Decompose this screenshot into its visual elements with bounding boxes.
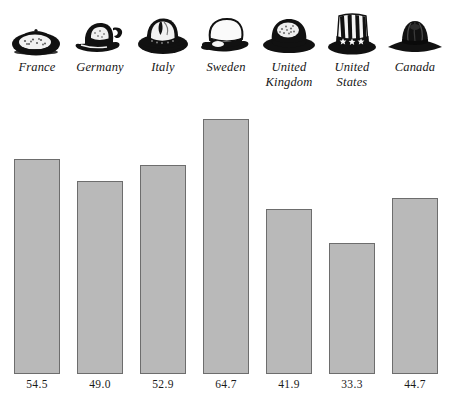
hat-cell-france <box>6 0 68 58</box>
category-label-united-states: United States <box>321 60 383 90</box>
bar-rect <box>329 243 375 374</box>
hat-cell-united-states <box>321 0 383 58</box>
bar-canada <box>392 198 438 374</box>
bar-italy <box>140 165 186 374</box>
value-label-italy: 52.9 <box>132 378 194 390</box>
bar-rect <box>392 198 438 374</box>
mountie-hat-icon <box>385 14 445 58</box>
tyrolean-hat-icon <box>71 14 129 58</box>
category-label-line1: Sweden <box>206 60 245 74</box>
bar-sweden <box>203 119 249 374</box>
bar-rect <box>77 181 123 374</box>
bar-rect <box>266 209 312 374</box>
bowler-hat-icon <box>260 12 318 58</box>
bar-united-states <box>329 243 375 374</box>
value-label-sweden: 64.7 <box>195 378 257 390</box>
value-label-france: 54.5 <box>6 378 68 390</box>
bar-rect <box>140 165 186 374</box>
hat-illustration-row <box>0 0 462 58</box>
hat-cell-sweden <box>195 0 257 58</box>
category-label-line1: United <box>272 60 307 74</box>
category-label-line2: States <box>321 75 383 90</box>
bar-united-kingdom <box>266 209 312 374</box>
value-label-canada: 44.7 <box>384 378 446 390</box>
beret-hat-icon <box>9 18 65 58</box>
category-label-italy: Italy <box>132 60 194 75</box>
value-label-united-states: 33.3 <box>321 378 383 390</box>
category-label-france: France <box>6 60 68 75</box>
category-label-canada: Canada <box>384 60 446 75</box>
value-label-germany: 49.0 <box>69 378 131 390</box>
bar-germany <box>77 181 123 374</box>
hat-cell-united-kingdom <box>258 0 320 58</box>
fedora-hat-icon <box>134 12 192 58</box>
bar-chart-figure: France Germany Italy Sweden United Kingd… <box>0 0 462 412</box>
bar-france <box>14 159 60 374</box>
student-cap-icon <box>197 12 255 58</box>
category-label-line1: Canada <box>395 60 436 74</box>
category-label-germany: Germany <box>69 60 131 75</box>
hat-cell-canada <box>384 0 446 58</box>
bar-rect <box>203 119 249 374</box>
plot-area <box>0 94 462 374</box>
category-label-united-kingdom: United Kingdom <box>258 60 320 90</box>
top-hat-stars-stripes-icon <box>324 8 380 58</box>
category-label-row: France Germany Italy Sweden United Kingd… <box>0 60 462 94</box>
value-label-row: 54.5 49.0 52.9 64.7 41.9 33.3 44.7 <box>0 378 462 398</box>
hat-cell-germany <box>69 0 131 58</box>
hat-cell-italy <box>132 0 194 58</box>
value-label-united-kingdom: 41.9 <box>258 378 320 390</box>
category-label-line1: United <box>335 60 370 74</box>
category-label-line1: France <box>19 60 56 74</box>
bar-rect <box>14 159 60 374</box>
category-label-line1: Italy <box>151 60 175 74</box>
category-label-line1: Germany <box>76 60 124 74</box>
category-label-sweden: Sweden <box>195 60 257 75</box>
category-label-line2: Kingdom <box>258 75 320 90</box>
